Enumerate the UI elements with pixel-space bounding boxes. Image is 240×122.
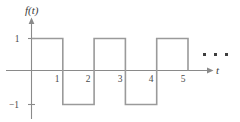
plot-canvas: f(t) t 1 −1 1 2 3 4 5 — [0, 0, 240, 122]
y-axis-arrowhead — [29, 18, 35, 25]
x-tick-label-4: 4 — [149, 74, 154, 84]
square-wave-figure: f(t) t 1 −1 1 2 3 4 5 — [0, 0, 240, 122]
x-tick-label-5: 5 — [181, 74, 186, 84]
y-tick-label-1: 1 — [15, 34, 20, 44]
x-tick-label-2: 2 — [86, 74, 91, 84]
x-tick-label-1: 1 — [55, 74, 60, 84]
y-tick-label-neg1: −1 — [9, 100, 19, 110]
y-axis-title: f(t) — [25, 4, 39, 17]
x-axis-arrowhead — [207, 68, 214, 74]
square-wave-trace — [32, 39, 189, 105]
x-axis-title: t — [216, 64, 220, 76]
continuation-dots — [203, 53, 228, 56]
x-tick-label-3: 3 — [118, 74, 123, 84]
y-axis — [29, 18, 35, 120]
x-axis — [6, 68, 214, 74]
